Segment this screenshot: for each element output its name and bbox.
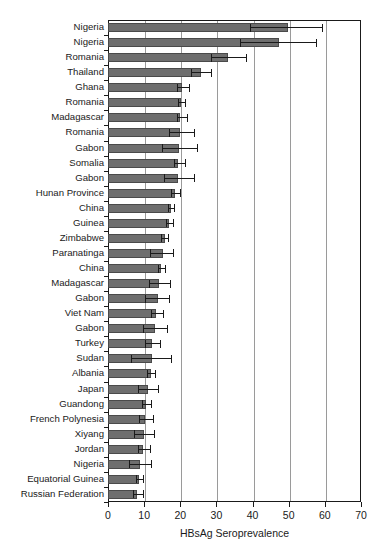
error-cap-low <box>168 204 169 212</box>
error-cap-high <box>211 69 212 77</box>
bar-row <box>108 351 361 366</box>
error-cap-high <box>169 295 170 303</box>
error-cap-low <box>169 129 170 137</box>
category-label: Nigeria <box>0 22 104 32</box>
x-tick-40 <box>253 502 254 507</box>
bar-row <box>108 487 361 502</box>
error-bar <box>134 434 155 435</box>
error-bar <box>145 298 169 299</box>
bars-layer <box>108 20 361 502</box>
error-cap-high <box>163 310 164 318</box>
category-label: Madagascar <box>0 278 104 288</box>
category-tick <box>104 171 108 172</box>
error-cap-high <box>180 189 181 197</box>
error-cap-high <box>194 174 195 182</box>
error-cap-high <box>167 325 168 333</box>
error-cap-low <box>145 295 146 303</box>
error-cap-low <box>162 144 163 152</box>
error-bar <box>129 464 152 465</box>
error-cap-high <box>153 415 154 423</box>
bar-row <box>108 427 361 442</box>
bar <box>108 159 178 168</box>
category-tick <box>104 336 108 337</box>
x-tick-label: 10 <box>129 509 159 521</box>
category-tick <box>104 110 108 111</box>
error-bar <box>161 238 168 239</box>
error-bar <box>150 253 173 254</box>
bar-row <box>108 20 361 35</box>
error-cap-high <box>150 445 151 453</box>
error-bar <box>166 223 174 224</box>
category-tick <box>104 382 108 383</box>
category-label: Xiyang <box>0 429 104 439</box>
error-bar <box>151 313 163 314</box>
category-tick <box>104 366 108 367</box>
category-label: Thailand <box>0 67 104 77</box>
category-tick <box>104 201 108 202</box>
error-cap-high <box>158 385 159 393</box>
category-label: Somalia <box>0 158 104 168</box>
error-cap-low <box>151 310 152 318</box>
x-tick-30 <box>216 502 217 507</box>
error-cap-low <box>161 234 162 242</box>
category-label: Madagascar <box>0 112 104 122</box>
error-cap-low <box>134 430 135 438</box>
error-cap-high <box>168 234 169 242</box>
category-tick <box>104 397 108 398</box>
bar-row <box>108 171 361 186</box>
error-bar <box>191 72 211 73</box>
category-label: Sudan <box>0 353 104 363</box>
category-tick <box>104 65 108 66</box>
bar-row <box>108 382 361 397</box>
category-label: Japan <box>0 384 104 394</box>
category-label: Romania <box>0 97 104 107</box>
error-cap-low <box>240 39 241 47</box>
category-label: Albania <box>0 368 104 378</box>
category-label: Gabon <box>0 173 104 183</box>
category-label: Zimbabwe <box>0 233 104 243</box>
bar-row <box>108 231 361 246</box>
category-tick <box>104 186 108 187</box>
error-cap-low <box>143 325 144 333</box>
x-tick-50 <box>289 502 290 507</box>
error-cap-high <box>189 84 190 92</box>
category-label: Romania <box>0 127 104 137</box>
error-cap-high <box>322 24 323 32</box>
error-cap-high <box>151 460 152 468</box>
bar-row <box>108 50 361 65</box>
bar-row <box>108 95 361 110</box>
category-label: Gabon <box>0 143 104 153</box>
error-cap-high <box>316 39 317 47</box>
category-label: Guandong <box>0 399 104 409</box>
error-cap-high <box>151 400 152 408</box>
error-cap-low <box>147 370 148 378</box>
error-bar <box>131 358 170 359</box>
error-bar <box>143 328 167 329</box>
error-bar <box>178 102 186 103</box>
bar-row <box>108 291 361 306</box>
x-tick-label: 40 <box>238 509 268 521</box>
error-cap-low <box>174 159 175 167</box>
error-cap-high <box>165 265 166 273</box>
bar <box>108 204 171 213</box>
bar-row <box>108 276 361 291</box>
bar-row <box>108 457 361 472</box>
category-tick <box>104 412 108 413</box>
bar-row <box>108 442 361 457</box>
error-cap-low <box>178 99 179 107</box>
error-bar <box>138 389 157 390</box>
bar-row <box>108 321 361 336</box>
error-cap-low <box>191 69 192 77</box>
category-label: Turkey <box>0 338 104 348</box>
bar <box>108 475 139 484</box>
error-cap-low <box>171 189 172 197</box>
bar-row <box>108 472 361 487</box>
error-cap-high <box>246 54 247 62</box>
category-label: Gabon <box>0 293 104 303</box>
bar <box>108 189 175 198</box>
error-cap-high <box>154 430 155 438</box>
bar-row <box>108 216 361 231</box>
category-tick <box>104 125 108 126</box>
bar <box>108 490 137 499</box>
error-bar <box>145 343 161 344</box>
